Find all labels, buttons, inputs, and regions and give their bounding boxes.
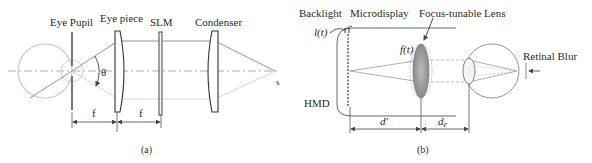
hmd-label: HMD [304, 97, 330, 109]
optics-diagram: θ s f f Eye Pupil Eye piece SLM Condense… [0, 0, 592, 163]
f-left-label: f [92, 107, 96, 119]
eye-lens-icon [463, 58, 475, 84]
retinal-blur-label: Retinal Blur [523, 50, 577, 62]
f-t-label: f(t) [400, 43, 414, 56]
focus-tunable-lens [413, 44, 429, 98]
focus-tunable-lens-label: Focus-tunable Lens [419, 7, 505, 19]
condenser-label: Condenser [195, 16, 242, 28]
slm-label: SLM [150, 16, 173, 28]
figure-b: Backlight Microdisplay Focus-tunable Len… [299, 7, 577, 156]
eye-piece-lens [115, 31, 124, 112]
slm-panel [159, 32, 162, 115]
condenser-lens [208, 31, 218, 112]
d-e-label: de [438, 115, 448, 129]
caption-b: (b) [417, 144, 429, 156]
source-label: s [276, 77, 280, 87]
figure-a: θ s f f Eye Pupil Eye piece SLM Condense… [8, 12, 280, 156]
backlight-label: Backlight [299, 7, 342, 19]
theta-label: θ [101, 66, 106, 78]
caption-a: (a) [141, 144, 152, 156]
eye-piece-label: Eye piece [100, 12, 143, 24]
d-prime-label: d′ [380, 115, 389, 127]
l-t-label: l(t) [314, 26, 328, 39]
lens-pointer-arrow [424, 18, 433, 40]
microdisplay-label: Microdisplay [350, 7, 409, 19]
eye-pupil-label: Eye Pupil [50, 16, 93, 28]
chief-ray [30, 41, 275, 98]
f-right-label: f [139, 107, 143, 119]
